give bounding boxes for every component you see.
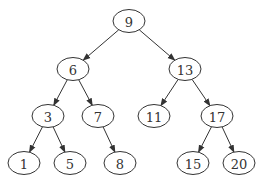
node-label: 11 [146,110,163,125]
tree-node-7: 7 [82,105,114,128]
node-label: 9 [125,15,133,30]
edge-9-13 [139,30,174,60]
nodes: 96133711171581520 [8,10,255,175]
edge-17-20 [222,127,234,152]
node-label: 13 [177,63,194,78]
node-label: 1 [20,157,28,172]
tree-node-3: 3 [32,105,64,128]
node-label: 8 [116,157,124,172]
node-label: 7 [94,110,102,125]
tree-node-9: 9 [113,10,145,33]
tree-node-5: 5 [54,152,86,175]
tree-diagram: 96133711171581520 [0,0,264,185]
edge-9-6 [83,30,118,60]
node-label: 15 [185,157,202,172]
edge-17-15 [199,127,212,152]
tree-node-20: 20 [223,152,255,175]
edge-6-7 [79,80,93,106]
node-label: 6 [69,63,77,78]
node-label: 17 [209,110,226,125]
tree-node-15: 15 [177,152,209,175]
tree-node-13: 13 [169,58,201,81]
edge-3-1 [30,127,43,152]
node-label: 5 [66,157,74,172]
node-label: 3 [44,110,52,125]
tree-svg: 96133711171581520 [0,0,264,185]
edge-13-11 [161,79,178,105]
edge-3-5 [53,127,65,152]
edge-13-17 [192,79,210,105]
tree-node-8: 8 [104,152,136,175]
edge-6-3 [54,80,68,106]
tree-node-6: 6 [57,58,89,81]
tree-node-11: 11 [138,105,170,128]
edge-7-8 [103,127,115,152]
edges [30,30,234,152]
node-label: 20 [231,157,248,172]
tree-node-1: 1 [8,152,40,175]
tree-node-17: 17 [201,105,233,128]
